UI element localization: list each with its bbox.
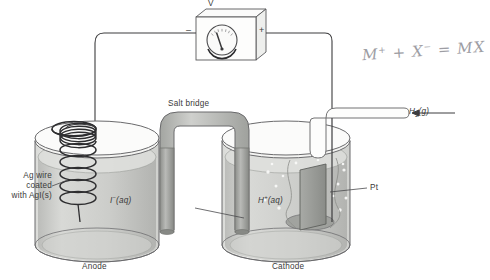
hydrogen-gas-tube <box>310 108 409 158</box>
anode-beaker <box>35 121 159 262</box>
ag-wire-label-line3: with AgI(s) <box>0 191 52 202</box>
cathode-label: Cathode <box>272 262 304 273</box>
ag-wire-label-line1: Ag wire <box>0 171 52 182</box>
proton-solution-label: H+(aq) <box>258 192 283 206</box>
voltmeter-positive-terminal: + <box>259 25 264 36</box>
voltmeter-negative-terminal: – <box>186 25 191 36</box>
voltmeter-symbol: V <box>208 0 214 10</box>
salt-bridge-label: Salt bridge <box>168 99 209 110</box>
cell-diagram-canvas: V – + Salt bridge Ag wire coated with Ag… <box>0 0 490 280</box>
platinum-label: Pt <box>370 183 378 194</box>
anode-label: Anode <box>82 262 107 273</box>
hydrogen-gas-label: H2(g) <box>409 107 429 120</box>
voltmeter <box>196 9 266 60</box>
iodide-solution-label: I−(aq) <box>110 192 131 206</box>
ag-wire-label-line2: coated <box>0 181 52 192</box>
